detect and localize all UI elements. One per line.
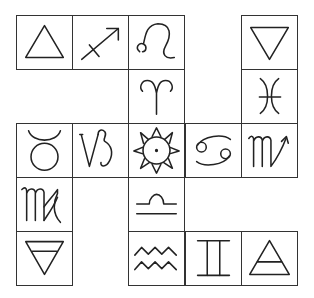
cell-scorpio: Scorpio — [241, 123, 298, 178]
cell-air: Air — [241, 231, 298, 286]
capricorn-icon — [73, 124, 128, 177]
cell-aquarius: Aquarius — [128, 231, 185, 286]
taurus-icon — [17, 124, 72, 177]
sagittarius-icon — [73, 16, 128, 69]
cancer-icon — [186, 124, 241, 177]
cell-libra: Libra — [128, 177, 185, 232]
cell-sagittarius: Sagittarius — [72, 15, 129, 70]
sun-icon — [129, 124, 184, 177]
cell-fire: Fire — [16, 15, 73, 70]
scorpio-icon — [242, 124, 297, 177]
gemini-icon — [186, 232, 241, 285]
cell-sun: Sun — [128, 123, 185, 178]
water-triangle-icon — [242, 16, 297, 69]
cell-gemini: Gemini — [185, 231, 242, 286]
cell-aries: Aries — [128, 69, 185, 124]
leo-icon — [129, 16, 184, 69]
fire-triangle-icon — [17, 16, 72, 69]
virgo-icon — [17, 178, 72, 231]
pisces-icon — [242, 70, 297, 123]
cell-pisces: Pisces — [241, 69, 298, 124]
aries-icon — [129, 70, 184, 123]
cell-earth: Earth — [16, 231, 73, 286]
cell-cancer: Cancer — [185, 123, 242, 178]
earth-triangle-icon — [17, 232, 72, 285]
cell-leo: Leo — [128, 15, 185, 70]
cell-water: Water — [241, 15, 298, 70]
cell-capricorn: Capricorn — [72, 123, 129, 178]
cell-virgo: Virgo — [16, 177, 73, 232]
cell-taurus: Taurus — [16, 123, 73, 178]
air-triangle-icon — [242, 232, 297, 285]
libra-icon — [129, 178, 184, 231]
aquarius-icon — [129, 232, 184, 285]
